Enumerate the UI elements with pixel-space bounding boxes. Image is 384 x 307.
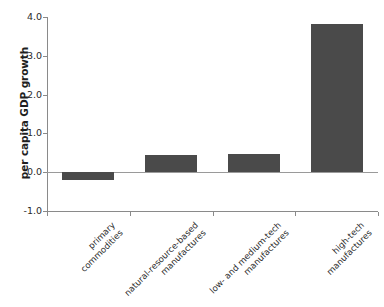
x-axis-tick-mark [295, 212, 296, 216]
x-label-line-2: commodities [33, 227, 125, 307]
x-axis-tick-mark [130, 212, 131, 216]
x-axis-tick-mark [378, 212, 379, 216]
x-label-line-1: low- and medium-tech [208, 220, 283, 295]
x-axis-tick-mark [213, 212, 214, 216]
x-axis-tick-labels: primarycommoditiesnatural-resource-based… [0, 0, 384, 307]
x-axis-tick-label: primarycommodities [26, 220, 126, 307]
x-axis-tick-mark [47, 212, 48, 216]
x-label-line-1: natural-resource-based [122, 220, 200, 298]
x-label-line-2: manufactures [198, 227, 290, 307]
bar-chart: per capita GDP growth 4.03.02.01.00.0-1.… [0, 0, 384, 307]
x-label-line-2: manufactures [281, 227, 373, 307]
